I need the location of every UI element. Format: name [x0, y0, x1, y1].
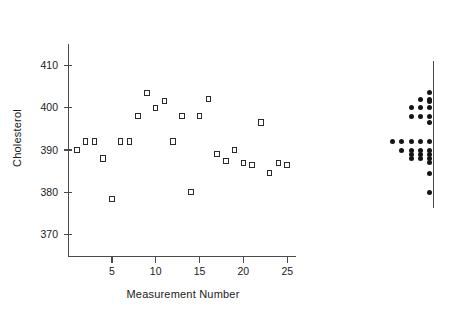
dotplot-dot — [427, 99, 432, 104]
scatter-point — [206, 96, 212, 102]
dotplot-dot — [418, 105, 423, 110]
x-tick-mark — [155, 256, 156, 263]
scatter-point — [135, 113, 141, 119]
scatter-point — [153, 105, 159, 111]
dotplot-dot — [409, 139, 414, 144]
dotplot-dot — [427, 139, 432, 144]
scatter-point — [223, 158, 229, 164]
scatter-point — [144, 90, 150, 96]
y-tick-label: 380 — [18, 187, 58, 197]
dotplot-dot — [427, 171, 432, 176]
dotplot-dot — [409, 105, 414, 110]
scatter-point — [92, 138, 98, 144]
x-tick-mark — [111, 256, 112, 263]
y-tick-label: 370 — [18, 229, 58, 239]
scatter-point — [179, 113, 185, 119]
y-tick-mark — [64, 149, 72, 150]
scatter-point — [118, 138, 124, 144]
x-axis-title: Measurement Number — [78, 288, 288, 300]
dotplot-dot — [427, 160, 432, 165]
x-tick-mark — [287, 256, 288, 263]
dotplot-dot — [418, 156, 423, 161]
dotplot-dot — [427, 190, 432, 195]
dotplot-dot — [427, 90, 432, 95]
y-axis-title: Cholesterol — [11, 93, 23, 183]
scatter-point — [188, 189, 194, 195]
dotplot-dot — [418, 97, 423, 102]
scatter-plot-panel: 370380390400410 510152025 Cholesterol Me… — [0, 0, 330, 313]
dotplot-dot — [427, 114, 432, 119]
dotplot-dot — [409, 156, 414, 161]
dotplot-reference-line — [433, 61, 434, 208]
scatter-point — [267, 170, 273, 176]
x-tick-mark — [199, 256, 200, 263]
dotplot-dot — [399, 139, 404, 144]
x-axis-line — [68, 256, 296, 257]
y-tick-mark — [64, 107, 72, 108]
dotplot-dot — [427, 105, 432, 110]
dotplot-dot — [399, 148, 404, 153]
dotplot-dot — [418, 114, 423, 119]
scatter-point — [83, 138, 89, 144]
scatter-point — [284, 162, 290, 168]
marginal-dotplot-panel — [330, 0, 462, 313]
scatter-point — [162, 98, 168, 104]
x-tick-label: 5 — [97, 266, 127, 277]
y-tick-label: 410 — [18, 60, 58, 70]
scatter-point — [74, 147, 80, 153]
dotplot-dot — [427, 120, 432, 125]
x-tick-label: 20 — [228, 266, 258, 277]
cholesterol-figure: 370380390400410 510152025 Cholesterol Me… — [0, 0, 462, 313]
y-tick-mark — [64, 234, 72, 235]
scatter-point — [214, 151, 220, 157]
y-tick-mark — [64, 65, 72, 66]
scatter-point — [249, 162, 255, 168]
dotplot-dot — [418, 139, 423, 144]
scatter-point — [241, 160, 247, 166]
scatter-point — [100, 155, 106, 161]
x-tick-label: 25 — [272, 266, 302, 277]
scatter-point — [276, 160, 282, 166]
x-tick-label: 15 — [185, 266, 215, 277]
scatter-point — [258, 119, 264, 125]
y-tick-label: 400 — [18, 102, 58, 112]
x-tick-mark — [243, 256, 244, 263]
dotplot-dot — [390, 139, 395, 144]
y-tick-mark — [64, 192, 72, 193]
scatter-point — [232, 147, 238, 153]
y-tick-label: 390 — [18, 145, 58, 155]
dotplot-dot — [409, 114, 414, 119]
scatter-point — [127, 138, 133, 144]
scatter-point — [109, 196, 115, 202]
scatter-point — [197, 113, 203, 119]
scatter-point — [170, 138, 176, 144]
x-tick-label: 10 — [141, 266, 171, 277]
